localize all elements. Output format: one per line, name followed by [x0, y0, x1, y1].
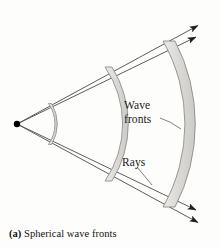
ray-upper-outer [17, 26, 198, 125]
ray-lower-outer [17, 124, 198, 223]
wavefront-outer [163, 41, 195, 207]
wave-fronts-label: Wave fronts [124, 99, 151, 126]
point-source-dot [14, 121, 20, 127]
caption-tag: (a) [9, 228, 21, 239]
caption-title: Spherical wave fronts [24, 228, 117, 239]
wavefront-inner [49, 104, 58, 145]
figure-caption: (a) Spherical wave fronts [9, 228, 117, 239]
wave-fronts-label-line1: Wave [124, 99, 150, 111]
rays-label: Rays [122, 156, 145, 170]
wave-front-diagram [0, 0, 220, 248]
leader-wave-fronts [160, 118, 181, 129]
wave-fronts-label-line2: fronts [124, 113, 151, 127]
spherical-wave-fronts-figure: Wave fronts Rays (a) Spherical wave fron… [0, 0, 220, 248]
leader-lines-group [137, 118, 181, 185]
